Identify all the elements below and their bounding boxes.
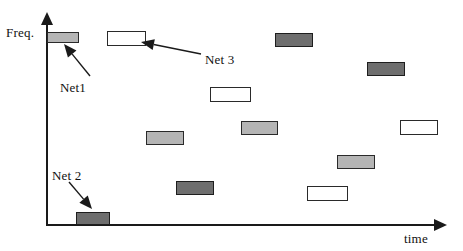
slot-net1-2 xyxy=(146,131,184,145)
slot-net2-2 xyxy=(275,33,313,47)
slot-net2-4 xyxy=(176,181,214,195)
slot-net3-2 xyxy=(210,87,251,102)
y-axis-label: Freq. xyxy=(6,25,34,41)
diagram-canvas: Freq. time Net1Net 3Net 2 xyxy=(0,0,463,251)
slot-net3-3 xyxy=(400,120,438,135)
slot-net2-1 xyxy=(76,212,110,225)
y-axis-arrowhead-icon xyxy=(41,12,53,25)
slot-net2-3 xyxy=(367,62,405,76)
annotation-label-net2: Net 2 xyxy=(52,168,82,184)
y-axis-line xyxy=(46,24,48,226)
x-axis-arrowhead-icon xyxy=(434,219,447,231)
slot-net3-1 xyxy=(107,31,146,46)
annotation-label-net3: Net 3 xyxy=(205,52,235,68)
slot-net3-4 xyxy=(307,186,348,201)
slot-net1-4 xyxy=(337,155,375,169)
annotation-label-net1: Net1 xyxy=(60,80,86,96)
x-axis-label: time xyxy=(404,231,428,247)
slot-net1-3 xyxy=(241,121,278,135)
slot-net1-1 xyxy=(47,32,79,43)
